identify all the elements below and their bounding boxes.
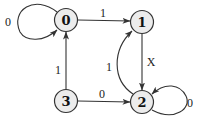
edge-0-1 (78, 20, 130, 21)
node-2: 2 (131, 91, 154, 114)
edge-label-0-0: 0 (5, 15, 11, 29)
node-3: 3 (55, 90, 78, 113)
node-label-0: 0 (61, 13, 70, 28)
edge-2-1 (117, 31, 133, 94)
edge-label-2-2: 0 (187, 96, 193, 110)
edge-3-2 (78, 101, 130, 102)
edge-label-1-2: X (147, 55, 156, 69)
node-label-3: 3 (61, 94, 70, 109)
edge-label-3-0: 1 (55, 63, 61, 77)
state-diagram: 0 1 X 1 0 1 0 0 1 2 3 (0, 0, 201, 124)
edge-label-0-1: 1 (100, 6, 106, 20)
edge-label-2-1: 1 (106, 60, 112, 74)
node-1: 1 (131, 11, 154, 34)
node-0: 0 (55, 9, 78, 32)
edge-0-0 (18, 4, 57, 39)
node-label-1: 1 (137, 15, 146, 30)
edge-2-2 (152, 86, 187, 115)
edge-label-3-2: 0 (99, 87, 105, 101)
node-label-2: 2 (137, 95, 146, 110)
